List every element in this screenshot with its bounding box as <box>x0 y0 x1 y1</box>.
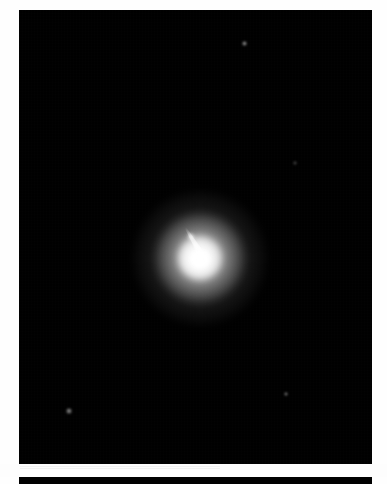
field-star <box>242 41 247 46</box>
galaxy-nucleus <box>190 250 210 268</box>
field-star <box>293 161 296 164</box>
next-image-top-edge <box>19 477 372 484</box>
astronomy-image-plate <box>19 10 372 464</box>
gutter-scan-lines <box>20 466 220 469</box>
page-canvas <box>0 0 387 484</box>
field-star <box>66 408 71 413</box>
field-star <box>284 392 289 397</box>
